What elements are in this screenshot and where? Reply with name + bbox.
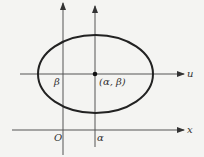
beta-label: β — [53, 76, 60, 87]
u-axis-label: u — [187, 68, 193, 79]
ellipse-diagram: (α, β) β u x O α — [0, 0, 204, 157]
center-point — [93, 72, 98, 77]
center-label: (α, β) — [99, 76, 126, 87]
x-axis-label: x — [187, 124, 193, 135]
origin-label: O — [54, 132, 62, 143]
alpha-label: α — [97, 132, 104, 143]
